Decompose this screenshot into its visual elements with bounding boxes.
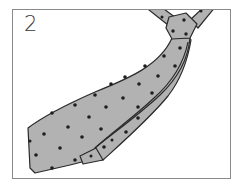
tie-knot — [166, 13, 197, 39]
step-number: 2 — [24, 14, 37, 35]
